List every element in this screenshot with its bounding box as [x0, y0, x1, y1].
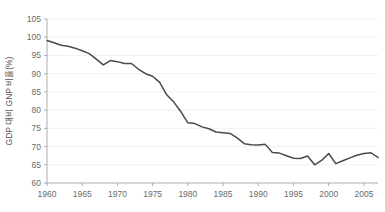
y-tick-label: 60 — [32, 178, 42, 188]
y-tick-label: 65 — [32, 160, 42, 170]
x-tick-label: 1965 — [73, 189, 92, 199]
y-tick-label: 75 — [32, 123, 42, 133]
x-tick-label: 1995 — [284, 189, 303, 199]
x-tick-label: 1985 — [214, 189, 233, 199]
x-tick-label: 1970 — [108, 189, 127, 199]
y-tick-label: 70 — [32, 142, 42, 152]
x-tick-label: 1975 — [143, 189, 162, 199]
y-axis-ticks-group: 6065707580859095100105 — [27, 14, 47, 188]
x-axis-ticks-group: 1960196519701975198019851990199520002005 — [38, 183, 374, 199]
data-series-line — [47, 41, 378, 165]
x-tick-label: 1980 — [178, 189, 197, 199]
y-tick-label: 100 — [27, 32, 41, 42]
chart-container: 6065707580859095100105 19601965197019751… — [0, 0, 385, 212]
line-chart: 6065707580859095100105 19601965197019751… — [0, 0, 385, 212]
y-tick-label: 105 — [27, 14, 41, 24]
x-tick-label: 2005 — [354, 189, 373, 199]
y-tick-label: 95 — [32, 50, 42, 60]
x-tick-label: 1960 — [38, 189, 57, 199]
y-tick-label: 85 — [32, 87, 42, 97]
y-tick-label: 90 — [32, 69, 42, 79]
x-tick-label: 1990 — [249, 189, 268, 199]
y-axis-title: GDP 대비 GNP 비율(%) — [4, 56, 14, 145]
gridlines-group — [47, 19, 378, 165]
x-tick-label: 2000 — [319, 189, 338, 199]
y-tick-label: 80 — [32, 105, 42, 115]
